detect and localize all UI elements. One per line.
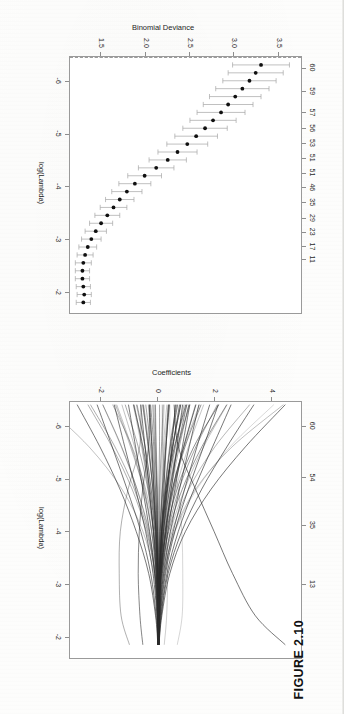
- cv-xaxis-title: log(Lambda): [37, 162, 46, 204]
- y-tick-label: 4: [269, 363, 276, 393]
- figure-stack: -2-3-4-5-6 log(Lambda) 3.53.02.52.01.5 B…: [12, 12, 332, 702]
- top-tick-mark: [302, 112, 306, 113]
- top-tick-label: 17: [309, 242, 316, 250]
- cv-mean-point: [94, 229, 98, 233]
- x-tick-mark: [65, 637, 69, 638]
- top-tick-mark: [302, 173, 306, 174]
- cv-mean-point: [105, 213, 109, 217]
- cv-plot-box: [69, 56, 302, 314]
- cv-mean-point: [99, 221, 103, 225]
- cv-mean-point: [240, 87, 244, 91]
- x-tick-mark: [65, 531, 69, 532]
- top-tick-label: 35: [309, 521, 316, 529]
- panel-coefficient-path: -2-3-4-5-6 log(Lambda) 420-2 Coefficient…: [12, 357, 332, 702]
- cv-mean-point: [89, 237, 93, 241]
- cv-mean-point: [81, 261, 85, 265]
- top-tick-label: 60: [309, 64, 316, 72]
- top-tick-mark: [302, 584, 306, 585]
- coef-plot-box: [69, 401, 302, 659]
- cv-mean-point: [133, 182, 137, 186]
- y-tick-mark: [157, 397, 158, 401]
- x-tick-label: -3: [55, 581, 62, 587]
- top-tick-mark: [302, 202, 306, 203]
- panel-cross-validation: -2-3-4-5-6 log(Lambda) 3.53.02.52.01.5 B…: [12, 12, 332, 357]
- top-tick-mark: [302, 143, 306, 144]
- x-tick-label: -4: [55, 528, 62, 534]
- cv-plot-inner: [70, 57, 301, 313]
- y-tick-label: 3.5: [275, 18, 282, 48]
- cv-mean-point: [83, 253, 87, 257]
- top-tick-label: 51: [309, 154, 316, 162]
- x-tick-label: -2: [55, 634, 62, 640]
- lambda-1se-line: [70, 57, 301, 58]
- top-tick-mark: [302, 232, 306, 233]
- coefficient-trace: [70, 405, 158, 645]
- coefficient-trace: [159, 405, 218, 645]
- top-tick-mark: [302, 246, 306, 247]
- x-tick-mark: [65, 239, 69, 240]
- y-tick-label: 2: [212, 363, 219, 393]
- x-tick-label: -5: [55, 475, 62, 481]
- top-tick-mark: [302, 91, 306, 92]
- y-tick-label: 1.5: [98, 18, 105, 48]
- rotated-figure-canvas: -2-3-4-5-6 log(Lambda) 3.53.02.52.01.5 B…: [12, 12, 332, 702]
- top-tick-label: 54: [309, 473, 316, 481]
- top-tick-mark: [302, 187, 306, 188]
- top-tick-label: 11: [309, 255, 316, 262]
- cv-mean-point: [82, 293, 86, 297]
- x-tick-label: -5: [55, 130, 62, 136]
- coef-xaxis-title: log(Lambda): [37, 507, 46, 549]
- top-tick-label: 13: [309, 580, 316, 588]
- cv-mean-point: [86, 245, 90, 249]
- x-tick-label: -6: [55, 423, 62, 429]
- y-tick-mark: [100, 397, 101, 401]
- cv-mean-point: [81, 285, 85, 289]
- cv-mean-point: [154, 166, 158, 170]
- top-tick-label: 56: [309, 124, 316, 132]
- cv-mean-point: [226, 103, 230, 107]
- cv-mean-point: [112, 206, 116, 210]
- y-tick-mark: [145, 52, 146, 56]
- x-tick-mark: [65, 584, 69, 585]
- top-tick-label: 29: [309, 214, 316, 222]
- top-tick-mark: [302, 426, 306, 427]
- top-tick-mark: [302, 128, 306, 129]
- top-tick-label: 60: [309, 422, 316, 430]
- x-tick-mark: [65, 81, 69, 82]
- coefficient-trace: [158, 405, 227, 645]
- top-tick-label: 46: [309, 183, 316, 191]
- cv-curve-svg: [70, 57, 301, 313]
- coef-plot-inner: [70, 402, 301, 658]
- top-tick-label: 57: [309, 108, 316, 116]
- cv-mean-point: [259, 63, 263, 67]
- figure-caption: FIGURE 2.10: [292, 620, 306, 699]
- coef-yaxis-title: Coefficients: [152, 368, 191, 377]
- cv-mean-point: [118, 198, 122, 202]
- cv-mean-point: [254, 71, 258, 75]
- x-tick-label: -3: [55, 236, 62, 242]
- x-tick-mark: [65, 134, 69, 135]
- scanned-page: -2-3-4-5-6 log(Lambda) 3.53.02.52.01.5 B…: [0, 0, 344, 714]
- y-tick-label: -2: [98, 363, 105, 393]
- top-tick-mark: [302, 218, 306, 219]
- cv-mean-point: [248, 79, 252, 83]
- cv-mean-point: [176, 150, 180, 154]
- cv-mean-point: [194, 134, 198, 138]
- cv-mean-points: [81, 63, 263, 304]
- top-tick-label: 51: [309, 169, 316, 177]
- top-tick-label: 59: [309, 87, 316, 95]
- cv-mean-point: [233, 95, 237, 99]
- cv-mean-point: [166, 158, 170, 162]
- top-tick-mark: [302, 68, 306, 69]
- top-tick-label: 35: [309, 198, 316, 206]
- coefficient-trace-group: [70, 405, 285, 645]
- cv-mean-point: [211, 118, 215, 122]
- cv-mean-point: [125, 190, 129, 194]
- x-tick-label: -6: [55, 78, 62, 84]
- x-tick-label: -4: [55, 183, 62, 189]
- coefficient-trace: [119, 405, 141, 645]
- y-tick-mark: [100, 52, 101, 56]
- y-tick-mark: [271, 397, 272, 401]
- x-tick-mark: [65, 292, 69, 293]
- y-tick-mark: [189, 52, 190, 56]
